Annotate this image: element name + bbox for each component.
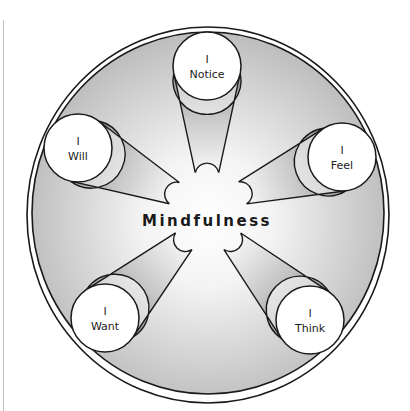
node-label-line1: I <box>340 144 343 157</box>
node-want: IWant <box>71 284 139 352</box>
node-circle-think <box>276 286 344 354</box>
node-label-line1: I <box>308 307 311 320</box>
node-label-line1: I <box>103 305 106 318</box>
node-label-line1: I <box>205 53 208 66</box>
node-label-line2: Feel <box>331 159 353 172</box>
node-will: IWill <box>44 114 112 182</box>
node-circle-feel <box>308 123 376 191</box>
node-label-line2: Think <box>294 322 326 335</box>
node-label-line2: Want <box>91 320 120 333</box>
center-label: Mindfulness <box>142 212 272 230</box>
node-circle-will <box>44 114 112 182</box>
node-label-line2: Will <box>68 150 88 163</box>
mindfulness-diagram: INoticeIFeelIThinkIWantIWill Mindfulness <box>0 0 410 411</box>
node-think: IThink <box>276 286 344 354</box>
node-circle-notice <box>173 32 241 100</box>
node-label-line1: I <box>76 135 79 148</box>
node-label-line2: Notice <box>189 68 224 81</box>
node-circle-want <box>71 284 139 352</box>
node-feel: IFeel <box>308 123 376 191</box>
node-notice: INotice <box>173 32 241 100</box>
